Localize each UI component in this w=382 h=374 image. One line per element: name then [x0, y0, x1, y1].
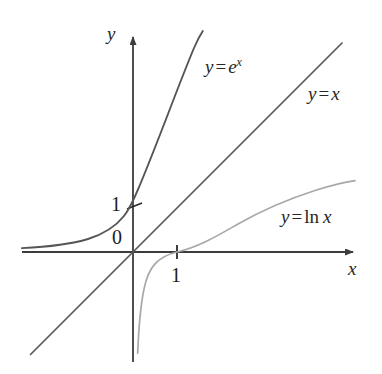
curve-label-exponential: y=ex — [205, 57, 242, 76]
linear-label-rhs: x — [331, 83, 339, 104]
x-axis-label: x — [348, 259, 356, 278]
exp-label-base: e — [228, 56, 236, 77]
exp-label-exponent: x — [237, 55, 242, 69]
linear-label-equals: = — [316, 83, 331, 104]
y-axis-tick-label-1: 1 — [111, 194, 121, 214]
origin-label: 0 — [112, 227, 122, 247]
log-label-function: ln — [304, 206, 319, 227]
figure-canvas: y x 1 0 1 y=ex y=x y=lnx — [0, 0, 382, 374]
log-label-arg: x — [319, 206, 331, 227]
curve-label-linear: y=x — [308, 84, 340, 103]
exp-label-equals: = — [213, 56, 228, 77]
curve-exponential — [22, 31, 203, 248]
log-label-equals: = — [289, 206, 304, 227]
x-axis-tick-label-1: 1 — [171, 265, 181, 285]
y-axis-label: y — [107, 24, 115, 43]
function-graph-svg — [0, 0, 382, 374]
curve-label-logarithm: y=lnx — [281, 207, 331, 226]
curve-identity-line — [31, 43, 343, 355]
